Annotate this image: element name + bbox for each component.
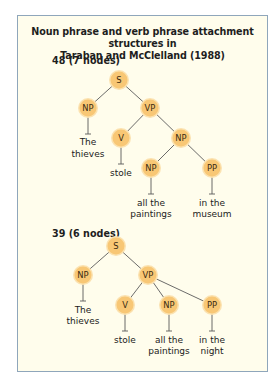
- svg-text:all the: all the: [137, 198, 166, 208]
- svg-text:NP: NP: [163, 300, 174, 310]
- tree-2-leaf-object: all the paintings: [148, 335, 190, 356]
- tree-2-leaf-verb: stole: [114, 335, 136, 345]
- svg-text:NP: NP: [82, 103, 93, 113]
- parse-trees: S NP VP V NP NP PP The thieves stole all…: [0, 0, 277, 388]
- tree-2-node-v: V: [115, 295, 135, 315]
- tree-1-node-np-inner: NP: [141, 158, 161, 178]
- tree-1-node-v: V: [111, 128, 131, 148]
- svg-text:in the: in the: [199, 335, 225, 345]
- svg-text:in the: in the: [199, 198, 225, 208]
- svg-text:stole: stole: [110, 168, 132, 178]
- svg-text:NP: NP: [145, 163, 156, 173]
- tree-1-node-pp: PP: [202, 158, 222, 178]
- tree-2-leaf-subject: The thieves: [67, 305, 100, 326]
- svg-text:PP: PP: [207, 300, 217, 310]
- svg-text:S: S: [116, 75, 121, 85]
- svg-text:The: The: [74, 305, 92, 315]
- svg-text:stole: stole: [114, 335, 136, 345]
- tree-1-leaf-verb: stole: [110, 168, 132, 178]
- svg-text:night: night: [200, 346, 224, 356]
- tree-2-node-np: NP: [73, 265, 93, 285]
- svg-text:S: S: [113, 241, 118, 251]
- tree-2-leaf-pp: in the night: [199, 335, 225, 356]
- svg-text:The: The: [79, 137, 97, 147]
- tree-1-node-np-object: NP: [171, 128, 191, 148]
- svg-text:V: V: [122, 300, 128, 310]
- tree-2-node-np-object: NP: [159, 295, 179, 315]
- svg-text:VP: VP: [145, 103, 156, 113]
- svg-text:all the: all the: [155, 335, 184, 345]
- tree-2-edges: [80, 246, 215, 331]
- svg-text:museum: museum: [192, 209, 231, 219]
- svg-text:NP: NP: [77, 270, 88, 280]
- tree-1-leaf-subject: The thieves: [72, 137, 105, 159]
- tree-2-node-s: S: [106, 236, 126, 256]
- svg-text:paintings: paintings: [130, 209, 172, 219]
- tree-2-node-vp: VP: [138, 265, 158, 285]
- svg-text:thieves: thieves: [67, 316, 100, 326]
- svg-text:paintings: paintings: [148, 346, 190, 356]
- svg-text:VP: VP: [143, 270, 154, 280]
- tree-2-node-pp: PP: [202, 295, 222, 315]
- tree-1-node-vp: VP: [140, 98, 160, 118]
- tree-1-node-np: NP: [78, 98, 98, 118]
- svg-text:NP: NP: [175, 133, 186, 143]
- svg-text:PP: PP: [207, 163, 217, 173]
- tree-1-leaf-object: all the paintings: [130, 198, 172, 219]
- svg-text:V: V: [118, 133, 124, 143]
- tree-1-leaf-pp: in the museum: [192, 198, 231, 219]
- tree-1-node-s: S: [109, 70, 129, 90]
- svg-text:thieves: thieves: [72, 149, 105, 159]
